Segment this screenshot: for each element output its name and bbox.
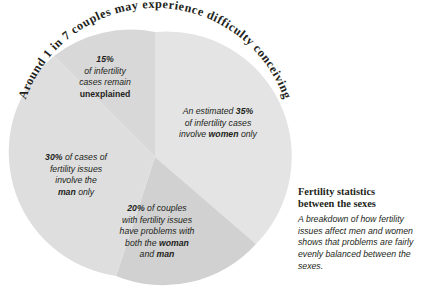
both-line2: with fertility issues bbox=[122, 215, 192, 225]
caption-body: A breakdown of how fertility issues affe… bbox=[298, 214, 420, 273]
women-percent: 35% bbox=[236, 106, 253, 116]
women-lead: An estimated bbox=[183, 106, 236, 116]
man-percent: 30% bbox=[45, 152, 62, 162]
both-keyword-woman: woman bbox=[159, 238, 189, 248]
both-percent: 20% bbox=[127, 203, 144, 213]
women-line3a: involve bbox=[179, 129, 208, 139]
man-line3: involve the bbox=[55, 175, 97, 185]
caption-block: Fertility statistics between the sexes A… bbox=[298, 186, 420, 272]
slice-label-unexplained: 15% of infertility cases remain unexplai… bbox=[56, 54, 154, 100]
man-line1-rest: of cases of bbox=[62, 152, 106, 162]
unexplained-line2: of infertility bbox=[84, 66, 126, 76]
unexplained-line4: unexplained bbox=[80, 89, 131, 99]
man-line2: fertility issues bbox=[50, 164, 102, 174]
caption-title-line1: Fertility statistics bbox=[298, 186, 375, 197]
unexplained-line3: cases remain bbox=[79, 77, 131, 87]
both-line3: have problems with bbox=[120, 226, 195, 236]
slice-label-both: 20% of couples with fertility issues hav… bbox=[94, 203, 220, 261]
man-keyword: man bbox=[58, 187, 76, 197]
women-line3c: only bbox=[239, 129, 257, 139]
slice-label-women: An estimated 35% of infertility cases in… bbox=[157, 106, 279, 141]
both-line5a: and bbox=[140, 249, 157, 259]
fertility-statistics-infographic: Around 1 in 7 couples may experience dif… bbox=[0, 0, 425, 307]
caption-title: Fertility statistics between the sexes bbox=[298, 186, 420, 211]
man-line4b: only bbox=[76, 187, 94, 197]
both-line1-rest: of couples bbox=[145, 203, 187, 213]
slice-label-man: 30% of cases of fertility issues involve… bbox=[20, 152, 132, 198]
unexplained-percent: 15% bbox=[96, 54, 113, 64]
both-keyword-man: man bbox=[157, 249, 175, 259]
women-line2: of infertility cases bbox=[185, 118, 252, 128]
both-line4a: both the bbox=[125, 238, 159, 248]
women-keyword: women bbox=[209, 129, 239, 139]
caption-title-line2: between the sexes bbox=[298, 198, 376, 209]
